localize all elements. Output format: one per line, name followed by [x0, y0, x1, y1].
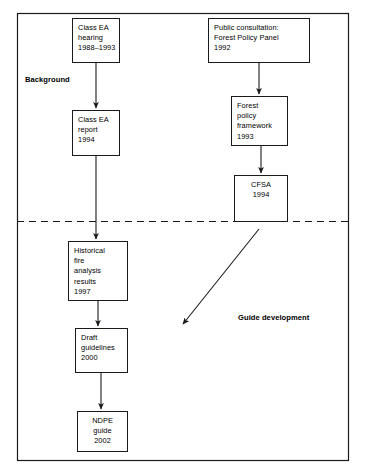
section-label-background: Background: [25, 75, 70, 84]
flowchart-canvas: [0, 0, 366, 467]
flowchart-diagram: Background Guide development Class EA he…: [0, 0, 366, 467]
node-ndpe-guide: NDPE guide 2002: [77, 411, 128, 452]
node-historical-fire-analysis: Historical fire analysis results 1997: [68, 241, 128, 301]
node-cfsa: CFSA 1994: [234, 175, 288, 222]
node-class-ea-hearing: Class EA hearing 1988–1993: [72, 18, 120, 63]
node-public-consultation: Public consultation: Forest Policy Panel…: [208, 18, 310, 63]
connector-cfsa-to-guide-development: [183, 229, 259, 324]
node-class-ea-report: Class EA report 1994: [72, 110, 120, 156]
section-label-guide-development: Guide development: [238, 313, 309, 322]
node-forest-policy-framework: Forest policy framework 1993: [231, 96, 288, 146]
node-draft-guidelines: Draft guidelines 2000: [75, 328, 128, 373]
